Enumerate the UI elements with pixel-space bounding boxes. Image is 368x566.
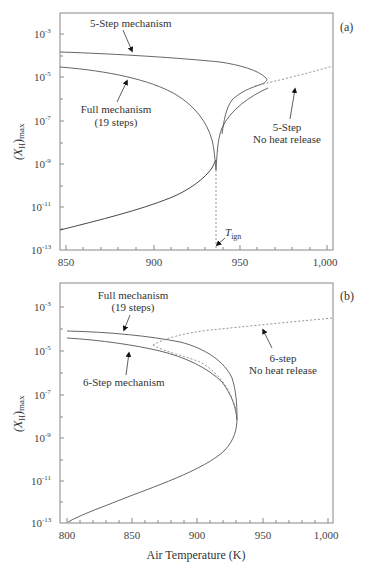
- annot-full-mechanism-a: Full mechanism: [81, 103, 152, 115]
- curve-full-mechanism-upper: [60, 67, 216, 170]
- panel-label-b: (b): [340, 289, 354, 303]
- annot-6step-nhr-1: 6-step: [270, 352, 297, 364]
- annot-6step-nhr-2: No heat release: [249, 364, 317, 376]
- y-axis-label-b: (XH)max: [11, 395, 27, 432]
- svg-text:800: 800: [59, 529, 76, 541]
- svg-text:10-7: 10-7: [34, 114, 51, 127]
- arrow-tign: [217, 238, 225, 245]
- annot-full-mechanism-b: Full mechanism: [98, 289, 169, 301]
- svg-text:10-5: 10-5: [34, 344, 51, 357]
- panel-a: 10-3 10-5 10-7 10-9 10-11 10-13 850 900 …: [11, 13, 353, 268]
- svg-text:10-7: 10-7: [34, 388, 51, 401]
- svg-text:10-13: 10-13: [31, 516, 52, 529]
- curve-lower-branch: [60, 160, 216, 230]
- x-ticks-b: [67, 518, 328, 523]
- svg-text:10-3: 10-3: [34, 300, 51, 313]
- svg-text:900: 900: [146, 256, 163, 268]
- svg-text:950: 950: [255, 529, 272, 541]
- y-ticks-b: [60, 307, 64, 502]
- curve-5step: [60, 52, 267, 134]
- svg-text:950: 950: [232, 256, 249, 268]
- svg-text:1,000: 1,000: [314, 529, 339, 541]
- curve-6step-nhr-upper: [153, 318, 333, 345]
- curve-6step-nhr-lower: [153, 345, 236, 410]
- arrow-5step-nhr: [290, 89, 295, 119]
- annot-6step-mechanism: 6-Step mechanism: [83, 376, 165, 388]
- annot-5step-nhr-1: 5-Step: [273, 121, 302, 133]
- x-axis-label-b: Air Temperature (K): [147, 548, 246, 562]
- plot-frame-b: [60, 283, 333, 523]
- arrow-full-mechanism-a: [117, 81, 127, 102]
- svg-text:1,000: 1,000: [313, 256, 338, 268]
- svg-text:10-11: 10-11: [31, 474, 52, 487]
- annot-19steps-a: (19 steps): [94, 116, 137, 129]
- y-tick-labels-a: 10-3 10-5 10-7 10-9 10-11 10-13: [31, 27, 52, 256]
- svg-text:850: 850: [58, 256, 75, 268]
- x-tick-labels-a: 850 900 950 1,000: [58, 256, 338, 268]
- x-ticks-a: [66, 245, 327, 250]
- svg-text:10-3: 10-3: [34, 27, 51, 40]
- curve-full-mechanism-right: [216, 88, 268, 170]
- curve-full-mechanism-b: [67, 331, 237, 418]
- curve-5step-no-heat-release: [255, 66, 333, 86]
- y-axis-label-a: (XH)max: [11, 123, 27, 160]
- arrow-full-mechanism-b: [124, 315, 130, 330]
- arrow-6step-nhr: [263, 330, 272, 348]
- panel-label-a: (a): [340, 20, 353, 34]
- svg-text:10-9: 10-9: [34, 431, 51, 444]
- svg-text:10-5: 10-5: [34, 70, 51, 83]
- svg-text:900: 900: [189, 529, 206, 541]
- figure: 10-3 10-5 10-7 10-9 10-11 10-13 850 900 …: [0, 0, 368, 566]
- curve-full-mechanism-b-lower: [68, 418, 237, 522]
- svg-text:850: 850: [124, 529, 141, 541]
- y-tick-labels-b: 10-3 10-5 10-7 10-9 10-11 10-13: [31, 300, 52, 529]
- svg-text:10-9: 10-9: [34, 157, 51, 170]
- x-tick-labels-b: 800 850 900 950 1,000: [59, 529, 339, 541]
- annot-5step-mechanism: 5-Step mechanism: [90, 17, 172, 29]
- y-ticks-a: [60, 34, 64, 229]
- svg-text:10-11: 10-11: [31, 200, 52, 213]
- panel-b: 10-3 10-5 10-7 10-9 10-11 10-13 800 850 …: [11, 283, 354, 562]
- arrow-6step-mechanism: [126, 353, 129, 375]
- svg-text:10-13: 10-13: [31, 243, 52, 256]
- arrow-5step: [123, 30, 132, 51]
- annot-19steps-b: (19 steps): [111, 301, 154, 314]
- annot-tign: Tign: [225, 226, 241, 241]
- annot-5step-nhr-2: No heat release: [253, 133, 321, 145]
